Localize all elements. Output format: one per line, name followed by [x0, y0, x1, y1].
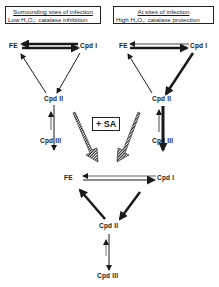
salicylic-acid-treatment-box: + SA: [92, 117, 120, 131]
left-node-cpd2: Cpd II: [44, 95, 63, 102]
right-node-cpd2: Cpd II: [152, 95, 171, 102]
right-node-fe: FE: [119, 42, 128, 49]
left-node-cpd3: Cpd III: [40, 137, 61, 144]
reaction-arrows: [0, 0, 219, 287]
bottom-node-fe: FE: [64, 174, 73, 181]
bottom-node-cpd1: Cpd I: [157, 174, 174, 181]
left-node-cpd1: Cpd I: [80, 42, 97, 49]
left-node-fe: FE: [9, 42, 18, 49]
right-node-cpd1: Cpd I: [190, 42, 207, 49]
bottom-node-cpd2: Cpd II: [99, 222, 118, 229]
right-node-cpd3: Cpd III: [152, 137, 173, 144]
bottom-node-cpd3: Cpd III: [97, 272, 118, 279]
